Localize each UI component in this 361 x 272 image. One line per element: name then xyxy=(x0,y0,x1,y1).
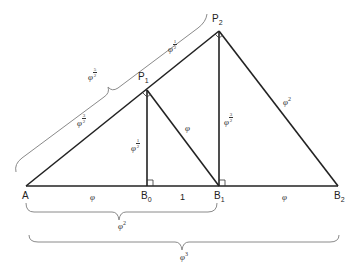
label-a-p1: φ32 xyxy=(77,118,86,129)
label-p1-b0: φ12 xyxy=(131,143,140,154)
brace-label-a-p2: φ52 xyxy=(88,72,97,83)
diagram-lines xyxy=(0,0,361,272)
point-label-b1: B1 xyxy=(214,191,225,201)
label-a-b0: φ xyxy=(90,193,95,202)
brace-label-a-b2: φ3 xyxy=(180,253,188,262)
segment-p2-b2 xyxy=(219,31,338,186)
segment-p1-b1 xyxy=(147,90,219,186)
point-label-p2: P2 xyxy=(212,14,223,24)
diagram-canvas: A B0 B1 B2 P1 P2 φ 1 φ φ32 φ12 φ12 φ φ32… xyxy=(0,0,361,272)
brace-a-b2 xyxy=(29,235,339,250)
point-label-b0: B0 xyxy=(141,191,152,201)
brace-a-b1 xyxy=(26,203,217,220)
brace-a-p2 xyxy=(16,14,207,172)
right-angle-b0 xyxy=(147,180,153,186)
label-p1-p2: φ12 xyxy=(168,44,177,55)
label-b0-b1: 1 xyxy=(180,193,185,202)
label-b1-b2: φ xyxy=(282,193,287,202)
segment-a-p2 xyxy=(26,31,219,186)
label-p2-b2: φ2 xyxy=(283,98,291,107)
label-p2-b1: φ32 xyxy=(224,117,233,128)
brace-label-a-b1: φ2 xyxy=(118,222,126,231)
point-label-b2: B2 xyxy=(334,191,345,201)
point-label-p1: P1 xyxy=(138,72,149,82)
right-angle-b1 xyxy=(219,180,225,186)
label-p1-b1: φ xyxy=(185,124,190,133)
point-label-a: A xyxy=(22,191,29,201)
